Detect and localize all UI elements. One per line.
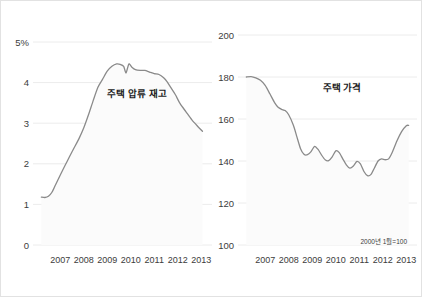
y-tick-label: 200 — [218, 30, 234, 41]
x-axis-labels-left: 2007200820092010201120122013 — [50, 255, 211, 265]
y-tick-label: 180 — [218, 72, 234, 83]
y-tick-label: 5% — [15, 37, 29, 48]
x-tick-label: 2009 — [302, 255, 322, 265]
y-tick-label: 160 — [218, 114, 234, 125]
y-tick-label: 120 — [218, 198, 234, 209]
housing-charts-figure: 5%43210 2007200820092010201120122013 주택 … — [0, 0, 422, 297]
foreclosure-inventory-svg: 5%43210 2007200820092010201120122013 주택 … — [1, 1, 212, 297]
x-axis-labels-right: 2007200820092010201120122013 — [255, 255, 416, 265]
y-tick-label: 2 — [24, 158, 29, 169]
x-tick-label: 2012 — [373, 255, 393, 265]
x-tick-label: 2013 — [396, 255, 416, 265]
y-tick-label: 140 — [218, 156, 234, 167]
index-base-annotation: 2000년 1월=100 — [360, 237, 407, 245]
x-tick-label: 2011 — [145, 255, 164, 265]
series-title-right: 주택 가격 — [323, 82, 362, 93]
house-prices-svg: 200180160140120100 200720082009201020112… — [212, 1, 422, 297]
x-tick-label: 2008 — [74, 255, 94, 265]
y-tick-label: 3 — [24, 118, 29, 129]
x-tick-label: 2010 — [121, 255, 141, 265]
x-tick-label: 2009 — [97, 255, 117, 265]
y-tick-label: 0 — [24, 240, 29, 251]
y-tick-label: 4 — [24, 77, 29, 88]
chart-panel-foreclosure-inventory: 5%43210 2007200820092010201120122013 주택 … — [1, 1, 212, 297]
y-tick-label: 100 — [218, 240, 234, 251]
y-axis-labels-left: 5%43210 — [15, 37, 29, 251]
x-tick-label: 2007 — [50, 255, 70, 265]
x-tick-label: 2013 — [191, 255, 211, 265]
y-axis-labels-right: 200180160140120100 — [218, 30, 234, 251]
x-tick-label: 2012 — [168, 255, 188, 265]
x-tick-label: 2008 — [279, 255, 299, 265]
x-tick-label: 2011 — [350, 255, 369, 265]
x-tick-label: 2007 — [255, 255, 275, 265]
chart-panel-house-prices: 200180160140120100 200720082009201020112… — [212, 1, 422, 297]
y-tick-label: 1 — [24, 199, 29, 210]
x-tick-label: 2010 — [326, 255, 346, 265]
series-title-left: 주택 압류 재고 — [107, 88, 166, 99]
